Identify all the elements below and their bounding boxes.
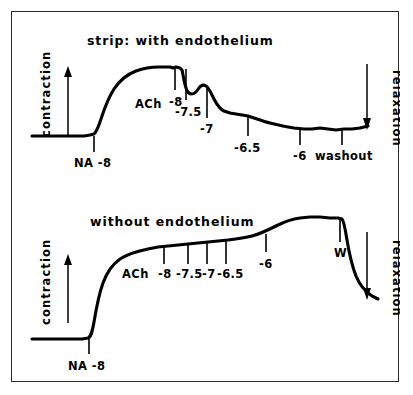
left-axis-label-top: contraction <box>39 51 53 137</box>
left-axis-group-top: contraction <box>39 51 72 137</box>
right-axis-group-bottom: relaxation <box>363 232 400 317</box>
label-ach-8-bottom: -8 <box>158 267 172 281</box>
figure-frame: strip: with endothelium contraction rela… <box>11 11 399 382</box>
panel-bottom-title: without endothelium <box>90 214 254 229</box>
right-axis-label-top: relaxation <box>390 70 400 147</box>
up-arrow-icon-bottom <box>64 254 72 265</box>
label-na-onset-bottom: NA -8 <box>68 359 105 373</box>
panel-top-title: strip: with endothelium <box>87 33 274 48</box>
panel-bottom-svg: without endothelium contraction relaxati… <box>12 198 400 383</box>
label-ach-top: ACh <box>135 97 162 111</box>
annotations-bottom: NA -8 ACh -8 -7.5 -7 -6.5 -6 W <box>68 219 347 373</box>
label-ach-6-bottom: -6 <box>259 257 273 271</box>
figure-root: strip: with endothelium contraction rela… <box>0 0 413 395</box>
up-arrow-icon <box>64 66 72 77</box>
panel-without-endothelium: without endothelium contraction relaxati… <box>12 198 400 383</box>
label-washout-bottom: W <box>334 246 347 260</box>
label-ach-bottom: ACh <box>122 267 149 281</box>
left-axis-label-bottom: contraction <box>39 239 53 325</box>
label-ach-7-bottom: -7 <box>202 267 216 281</box>
panel-with-endothelium: strip: with endothelium contraction rela… <box>12 12 400 197</box>
label-na-onset-top: NA -8 <box>74 156 111 170</box>
label-ach-65-bottom: -6.5 <box>217 267 244 281</box>
panel-top-svg: strip: with endothelium contraction rela… <box>12 12 400 197</box>
label-ach-6-top: -6 <box>293 149 307 163</box>
label-ach-7-top: -7 <box>200 122 214 136</box>
label-ach-75-bottom: -7.5 <box>176 267 203 281</box>
label-ach-75-top: -7.5 <box>175 105 202 119</box>
right-axis-label-bottom: relaxation <box>390 240 400 317</box>
right-axis-group-top: relaxation <box>363 64 400 147</box>
label-washout-top: washout <box>315 149 373 163</box>
label-ach-65-top: -6.5 <box>234 141 261 155</box>
left-axis-group-bottom: contraction <box>39 239 72 325</box>
